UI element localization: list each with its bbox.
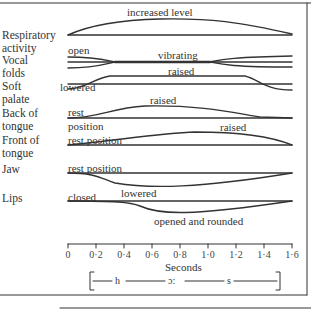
annotation-increased-level: increased level [127, 6, 193, 18]
annotation-vibrating: vibrating [158, 49, 198, 61]
annotation-rest-position-front: rest position [68, 134, 122, 146]
annotation-closed: closed [68, 191, 96, 203]
row-label-soft-palate: Soft palate [2, 80, 29, 106]
row-label-line: palate [2, 93, 29, 106]
annotation-position: position [68, 120, 103, 132]
tick-label: 0·8 [173, 249, 186, 260]
tick-label: 1·2 [229, 249, 242, 260]
annotation-rest: rest [68, 106, 84, 118]
respiratory-curve [68, 19, 292, 35]
tick-label: 0·6 [145, 249, 158, 260]
tick-label: 1·6 [285, 249, 298, 260]
row-label-line: Soft [2, 80, 29, 93]
articulation-diagram: Respiratory activity Vocal folds Soft pa… [0, 0, 311, 311]
row-label-jaw: Jaw [2, 163, 20, 176]
row-label-line: tongue [2, 147, 39, 160]
row-label-line: Vocal [2, 54, 28, 67]
row-label-respiratory: Respiratory activity [2, 29, 56, 55]
tick-label: 0·2 [89, 249, 102, 260]
row-label-lips: Lips [2, 192, 22, 205]
row-label-line: Back of [2, 107, 38, 120]
annotation-rest-position-jaw: rest position [68, 162, 122, 174]
annotation-raised-palate: raised [168, 65, 194, 77]
tick-label: 0 [66, 249, 71, 260]
row-label-line: tongue [2, 120, 38, 133]
row-label-front-of-tongue: Front of tongue [2, 134, 39, 160]
row-label-back-of-tongue: Back of tongue [2, 107, 38, 133]
tick-label: 0·4 [117, 249, 130, 260]
row-label-line: Front of [2, 134, 39, 147]
segment-s: s [227, 275, 231, 287]
row-label-line: Respiratory [2, 29, 56, 42]
axis-title: Seconds [165, 261, 202, 273]
annotation-lowered-jaw: lowered [121, 187, 156, 199]
row-label-vocal-folds: Vocal folds [2, 54, 28, 80]
row-label-line: folds [2, 67, 28, 80]
segment-vowel: ɔ: [168, 275, 175, 287]
annotation-raised-front-tongue: raised [220, 121, 246, 133]
annotation-raised-back-tongue: raised [150, 94, 176, 106]
tick-label: 1·4 [257, 249, 270, 260]
annotation-open: open [68, 44, 89, 56]
segment-h: h [115, 275, 120, 287]
annotation-lowered-palate: lowered [60, 81, 95, 93]
tick-label: 1·0 [201, 249, 214, 260]
annotation-opened-rounded: opened and rounded [154, 215, 243, 227]
